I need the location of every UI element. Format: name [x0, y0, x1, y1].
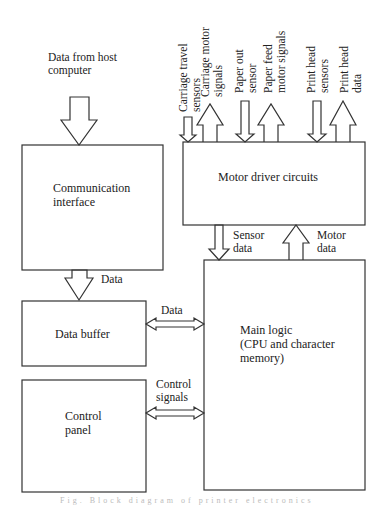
print-head-data-arrow-icon [330, 101, 356, 142]
link-label-line: data [317, 242, 346, 255]
block-label-line: (CPU and character [240, 337, 335, 351]
paper-feed-motor-signals-arrow-icon [258, 104, 284, 142]
buffer-main-label: Data [161, 304, 183, 317]
main-logic-block [204, 260, 365, 490]
signal-label-line: Paper feed [262, 31, 275, 93]
paper-out-sensor-label: Paper out sensor [233, 49, 258, 93]
carriage-motor-signals-label: Carriage motor signals [199, 27, 224, 97]
host-data-label-line: computer [48, 64, 117, 77]
block-label-line: Control [65, 409, 102, 423]
block-label-line: memory) [240, 351, 335, 365]
main-logic-label: Main logic (CPU and character memory) [240, 323, 335, 365]
signal-label-line: motor signals [275, 31, 288, 93]
host-data-label: Data from host computer [48, 51, 117, 77]
motor-driver-label: Motor driver circuits [218, 171, 318, 184]
host-data-arrow-icon [61, 97, 97, 145]
link-label-line: Control [156, 378, 191, 391]
signal-label-line: Print head [338, 46, 351, 93]
panel-main-label: Control signals [156, 378, 191, 404]
block-label-line: panel [65, 423, 102, 437]
comm-to-buffer-arrow-icon [65, 270, 93, 300]
signal-label-line: sensor [246, 49, 259, 93]
sensor-data-arrow-icon [209, 225, 229, 260]
sensor-data-label: Sensor data [233, 229, 264, 255]
print-head-sensors-label: Print head sensors [305, 46, 330, 93]
communication-interface-label: Communication interface [53, 181, 130, 209]
block-label-line: Data buffer [55, 328, 110, 341]
print-head-data-label: Print head data [338, 46, 363, 93]
signal-label-line: data [351, 46, 364, 93]
paper-out-sensor-arrow-icon [236, 101, 254, 142]
link-label-line: data [233, 242, 264, 255]
control-panel-label: Control panel [65, 409, 102, 437]
carriage-travel-sensors-arrow-icon [180, 117, 196, 142]
link-label-line: Sensor [233, 229, 264, 242]
buffer-main-double-arrow-icon [146, 318, 204, 330]
signal-label-line: signals [212, 27, 225, 97]
signal-label-line: Carriage motor [199, 27, 212, 97]
paper-feed-motor-signals-label: Paper feed motor signals [262, 31, 287, 93]
comm-to-buffer-label: Data [101, 273, 123, 286]
figure-caption: Fig. Block diagram of printer electronic… [60, 496, 340, 505]
motor-data-arrow-icon [283, 225, 309, 260]
print-head-sensors-arrow-icon [308, 101, 326, 142]
block-label-line: Motor driver circuits [218, 171, 318, 184]
motor-data-label: Motor data [317, 229, 346, 255]
signal-label-line: sensors [318, 46, 331, 93]
data-buffer-label: Data buffer [55, 328, 110, 341]
signal-label-line: Print head [305, 46, 318, 93]
link-label-line: signals [156, 391, 191, 404]
signal-label-line: Carriage travel [177, 43, 190, 112]
host-data-label-line: Data from host [48, 51, 117, 64]
block-label-line: Main logic [240, 323, 335, 337]
block-label-line: Communication [53, 181, 130, 195]
panel-main-double-arrow-icon [146, 407, 204, 419]
signal-label-line: Paper out [233, 49, 246, 93]
link-label-line: Motor [317, 229, 346, 242]
block-label-line: interface [53, 195, 130, 209]
